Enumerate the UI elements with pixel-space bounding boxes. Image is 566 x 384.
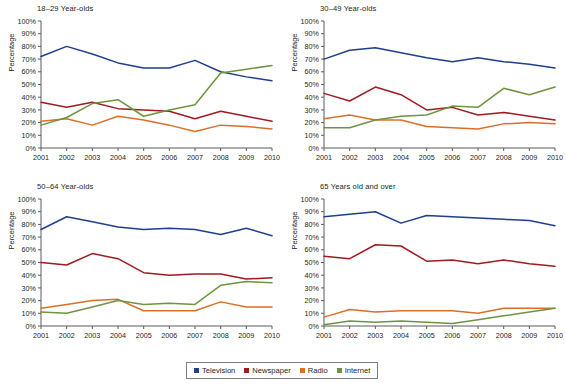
legend-item[interactable]: Radio <box>300 366 328 375</box>
y-tick-label: 100% <box>18 195 37 204</box>
y-tick-label: 40% <box>305 93 320 102</box>
x-tick-label: 2007 <box>187 153 203 162</box>
y-tick-label: 30% <box>22 106 37 115</box>
x-tick-label: 2007 <box>470 153 486 162</box>
x-tick-label: 2002 <box>59 153 75 162</box>
x-tick-label: 2004 <box>110 153 126 162</box>
y-tick-label: 80% <box>305 42 320 51</box>
series-line-television <box>324 212 555 226</box>
x-tick-label: 2002 <box>342 331 358 340</box>
x-tick-label: 2010 <box>264 331 280 340</box>
x-tick-label: 2004 <box>393 331 409 340</box>
legend-label: Television <box>202 366 235 375</box>
x-tick-label: 2005 <box>136 153 152 162</box>
y-tick-label: 0% <box>309 144 320 153</box>
legend-label: Internet <box>345 366 371 375</box>
legend-label: Newspaper <box>252 366 290 375</box>
series-line-radio <box>324 115 555 129</box>
x-tick-label: 2003 <box>84 153 100 162</box>
series-line-television <box>324 48 555 68</box>
legend-item[interactable]: Television <box>194 366 235 375</box>
x-tick-label: 2010 <box>547 331 563 340</box>
x-tick-label: 2003 <box>367 331 383 340</box>
series-line-radio <box>41 299 272 310</box>
y-tick-label: 10% <box>305 309 320 318</box>
y-tick-label: 50% <box>22 258 37 267</box>
plot-area: 0%10%20%30%40%50%60%70%80%90%100%2001200… <box>0 2 283 178</box>
x-tick-label: 2008 <box>496 331 512 340</box>
legend-item[interactable]: Internet <box>337 366 371 375</box>
y-tick-label: 30% <box>305 284 320 293</box>
y-tick-label: 20% <box>305 118 320 127</box>
y-tick-label: 0% <box>26 144 37 153</box>
legend-swatch-icon <box>194 368 199 373</box>
chart-panel-50-64: 50–64 Year-olds Percentage 0%10%20%30%40… <box>0 180 283 356</box>
y-tick-label: 40% <box>22 93 37 102</box>
legend-swatch-icon <box>244 368 249 373</box>
y-tick-label: 10% <box>22 131 37 140</box>
x-tick-label: 2001 <box>33 153 49 162</box>
y-tick-label: 0% <box>26 322 37 331</box>
x-tick-label: 2002 <box>342 153 358 162</box>
chart-panel-65-plus: 65 Years old and over Percentage 0%10%20… <box>283 180 566 356</box>
x-tick-label: 2005 <box>136 331 152 340</box>
y-tick-label: 10% <box>22 309 37 318</box>
plot-area: 0%10%20%30%40%50%60%70%80%90%100%2001200… <box>283 180 566 356</box>
y-tick-label: 60% <box>305 245 320 254</box>
y-tick-label: 30% <box>305 106 320 115</box>
y-tick-label: 100% <box>18 17 37 26</box>
y-tick-label: 70% <box>305 55 320 64</box>
y-tick-label: 90% <box>305 29 320 38</box>
y-tick-label: 60% <box>305 67 320 76</box>
y-tick-label: 70% <box>22 233 37 242</box>
legend-label: Radio <box>308 366 328 375</box>
x-tick-label: 2009 <box>521 331 537 340</box>
x-tick-label: 2005 <box>419 331 435 340</box>
y-tick-label: 100% <box>301 195 320 204</box>
y-tick-label: 50% <box>305 80 320 89</box>
x-tick-label: 2008 <box>496 153 512 162</box>
x-tick-label: 2003 <box>84 331 100 340</box>
x-tick-label: 2004 <box>110 331 126 340</box>
plot-area: 0%10%20%30%40%50%60%70%80%90%100%2001200… <box>0 180 283 356</box>
x-tick-label: 2001 <box>316 331 332 340</box>
x-tick-label: 2001 <box>33 331 49 340</box>
y-tick-label: 20% <box>22 296 37 305</box>
x-tick-label: 2007 <box>470 331 486 340</box>
y-tick-label: 40% <box>22 271 37 280</box>
x-tick-label: 2008 <box>213 331 229 340</box>
x-tick-label: 2007 <box>187 331 203 340</box>
y-tick-label: 80% <box>305 220 320 229</box>
y-tick-label: 0% <box>309 322 320 331</box>
y-tick-label: 50% <box>22 80 37 89</box>
y-tick-label: 10% <box>305 131 320 140</box>
series-line-television <box>41 46 272 80</box>
y-tick-label: 60% <box>22 245 37 254</box>
y-tick-label: 70% <box>305 233 320 242</box>
x-tick-label: 2006 <box>161 153 177 162</box>
x-tick-label: 2006 <box>444 331 460 340</box>
x-tick-label: 2009 <box>521 153 537 162</box>
y-tick-label: 100% <box>301 17 320 26</box>
legend-swatch-icon <box>337 368 342 373</box>
legend-item[interactable]: Newspaper <box>244 366 290 375</box>
x-tick-label: 2006 <box>444 153 460 162</box>
x-tick-label: 2003 <box>367 153 383 162</box>
chart-figure: 18–29 Year-olds Percentage 0%10%20%30%40… <box>0 0 566 384</box>
y-tick-label: 70% <box>22 55 37 64</box>
chart-panel-30-49: 30–49 Year-olds Percentage 0%10%20%30%40… <box>283 2 566 178</box>
chart-legend: TelevisionNewspaperRadioInternet <box>186 362 378 379</box>
x-tick-label: 2010 <box>547 153 563 162</box>
y-tick-label: 40% <box>305 271 320 280</box>
x-tick-label: 2009 <box>238 153 254 162</box>
y-tick-label: 90% <box>305 207 320 216</box>
x-tick-label: 2002 <box>59 331 75 340</box>
y-tick-label: 80% <box>22 220 37 229</box>
x-tick-label: 2004 <box>393 153 409 162</box>
x-tick-label: 2005 <box>419 153 435 162</box>
x-tick-label: 2010 <box>264 153 280 162</box>
chart-panel-18-29: 18–29 Year-olds Percentage 0%10%20%30%40… <box>0 2 283 178</box>
x-tick-label: 2001 <box>316 153 332 162</box>
series-line-newspaper <box>41 254 272 279</box>
series-line-internet <box>41 282 272 314</box>
